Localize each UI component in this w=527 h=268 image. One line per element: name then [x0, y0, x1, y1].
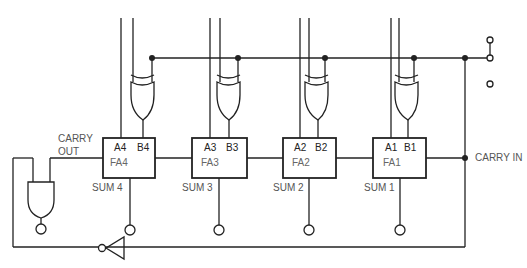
sum2-label: SUM 2: [273, 182, 304, 193]
fa1-name: FA1: [383, 157, 401, 168]
circuit-diagram: CARRY OUT CARRY IN A4 B4 FA4 SUM 4 A3 B3…: [0, 0, 527, 268]
carry-in-label: CARRY IN: [475, 152, 522, 163]
fa4-a-label: A4: [114, 142, 126, 153]
sum3-label: SUM 3: [182, 182, 213, 193]
fa1-b-label: B1: [404, 142, 416, 153]
fa2-b-label: B2: [315, 142, 327, 153]
carry-out-label-2: OUT: [58, 146, 79, 157]
sum1-label: SUM 1: [364, 182, 395, 193]
fa1-a-label: A1: [385, 142, 397, 153]
fa4-b-label: B4: [137, 142, 149, 153]
fa2-a-label: A2: [294, 142, 306, 153]
sum4-label: SUM 4: [92, 182, 123, 193]
carry-out-label-1: CARRY: [58, 133, 93, 144]
fa3-name: FA3: [201, 157, 219, 168]
fa4-name: FA4: [110, 157, 128, 168]
fa3-b-label: B3: [226, 142, 238, 153]
fa2-name: FA2: [292, 157, 310, 168]
fa3-a-label: A3: [204, 142, 216, 153]
